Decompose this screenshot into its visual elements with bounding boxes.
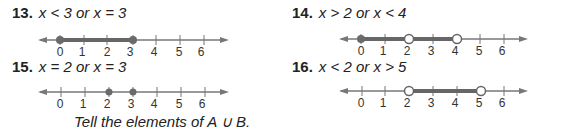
svg-text:5: 5 <box>476 96 483 109</box>
problem-expression: x < 3 or x = 3 <box>39 4 127 21</box>
number-line-15: 0123456 <box>0 80 285 110</box>
svg-text:0: 0 <box>57 45 64 58</box>
problem-expression: x = 2 or x = 3 <box>39 58 127 75</box>
problem-15: 15.x = 2 or x = 3 <box>12 58 126 75</box>
svg-text:0: 0 <box>358 44 365 57</box>
problem-13: 13.x < 3 or x = 3 <box>12 4 126 21</box>
problem-number: 15. <box>12 58 33 75</box>
right-arrow-icon <box>519 36 528 42</box>
svg-text:5: 5 <box>176 97 183 110</box>
caption: Tell the elements of A ∪ B. <box>74 113 250 131</box>
svg-text:1: 1 <box>79 45 86 58</box>
svg-text:4: 4 <box>452 44 459 57</box>
svg-text:5: 5 <box>476 44 483 57</box>
problem-14: 14.x > 2 or x < 4 <box>292 4 406 21</box>
closed-point-icon <box>130 89 137 96</box>
open-point-icon <box>405 35 414 44</box>
svg-text:5: 5 <box>176 45 183 58</box>
svg-text:2: 2 <box>104 45 111 58</box>
svg-text:3: 3 <box>128 97 135 110</box>
svg-text:1: 1 <box>380 44 387 57</box>
svg-text:3: 3 <box>127 45 134 58</box>
svg-text:0: 0 <box>57 97 64 110</box>
problem-number: 13. <box>12 4 33 21</box>
left-arrow-icon <box>339 88 348 94</box>
svg-text:1: 1 <box>80 97 87 110</box>
svg-text:2: 2 <box>404 96 411 109</box>
svg-text:6: 6 <box>198 45 205 58</box>
svg-text:3: 3 <box>428 96 435 109</box>
problem-expression: x > 2 or x < 4 <box>319 4 407 21</box>
svg-text:2: 2 <box>104 97 111 110</box>
closed-point-icon <box>357 35 365 43</box>
number-line-14: 0123456 <box>285 27 569 57</box>
problem-16: 16.x < 2 or x > 5 <box>292 58 406 75</box>
svg-text:4: 4 <box>151 45 158 58</box>
problem-number: 16. <box>292 58 313 75</box>
svg-text:6: 6 <box>499 96 506 109</box>
open-point-icon <box>453 35 462 44</box>
number-line-13: 0123456 <box>0 28 285 58</box>
closed-point-icon <box>106 89 113 96</box>
svg-text:0: 0 <box>358 96 365 109</box>
open-point-icon <box>477 87 486 96</box>
svg-text:4: 4 <box>151 97 158 110</box>
right-arrow-icon <box>220 37 229 43</box>
closed-point-icon <box>56 36 64 44</box>
svg-text:6: 6 <box>199 97 206 110</box>
open-point-icon <box>405 87 414 96</box>
svg-text:1: 1 <box>380 96 387 109</box>
left-arrow-icon <box>38 89 47 95</box>
svg-text:4: 4 <box>452 96 459 109</box>
number-line-16: 0123456 <box>285 79 569 109</box>
svg-text:2: 2 <box>404 44 411 57</box>
left-arrow-icon <box>38 37 47 43</box>
problem-expression: x < 2 or x > 5 <box>319 58 407 75</box>
closed-point-icon <box>129 36 137 44</box>
problem-number: 14. <box>292 4 313 21</box>
svg-text:3: 3 <box>428 44 435 57</box>
right-arrow-icon <box>519 88 528 94</box>
right-arrow-icon <box>220 89 229 95</box>
svg-text:6: 6 <box>499 44 506 57</box>
left-arrow-icon <box>339 36 348 42</box>
